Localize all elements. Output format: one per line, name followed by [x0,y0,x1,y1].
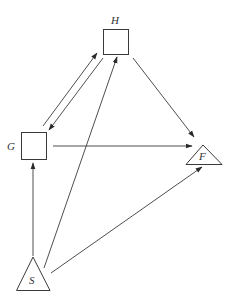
node-h-label: H [110,14,120,26]
node-g-label: G [7,140,15,152]
node-f-label: F [198,150,206,162]
node-s-label: S [29,274,35,286]
edges [33,53,202,273]
node-h: H [104,14,129,55]
node-h-square [104,30,129,55]
edge-h-to-f [133,58,194,137]
edge-h-to-g [49,58,103,130]
graph-diagram: H G F S [0,0,234,299]
node-g: G [7,133,47,160]
node-f: F [186,145,222,165]
edge-g-to-h [43,53,97,126]
node-g-square [22,133,47,160]
node-s: S [17,257,51,291]
